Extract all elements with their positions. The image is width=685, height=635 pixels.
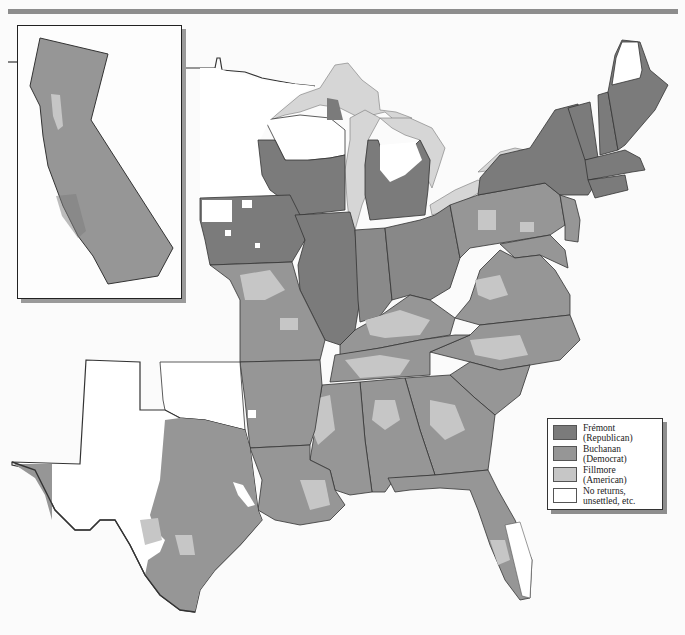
- pa-fillmore-2: [520, 222, 534, 232]
- pa-fillmore-1: [478, 210, 496, 230]
- iowa-white-2: [225, 230, 231, 236]
- missouri-fillmore-2: [280, 318, 298, 330]
- legend-label-no-returns: No returns, unsettled, etc.: [583, 487, 636, 506]
- legend-swatch-no-returns: [553, 488, 577, 503]
- california-inset: [17, 25, 182, 299]
- legend-item-no-returns: No returns, unsettled, etc.: [553, 487, 662, 508]
- iowa-white-1: [242, 200, 252, 208]
- maine-north-white: [612, 42, 642, 85]
- legend-swatch-fremont: [553, 425, 577, 440]
- legend-item-buchanan: Buchanan (Democrat): [553, 445, 662, 466]
- iowa-white-nw: [202, 200, 232, 222]
- map-legend: Frémont (Republican) Buchanan (Democrat)…: [547, 418, 663, 510]
- legend-label-fillmore: Fillmore (American): [583, 466, 627, 485]
- california-map: [18, 26, 181, 298]
- state-california: [30, 38, 173, 284]
- state-ohio: [385, 205, 460, 300]
- legend-item-fremont: Frémont (Republican): [553, 424, 662, 445]
- legend-label-fremont: Frémont (Republican): [583, 424, 633, 443]
- legend-label-buchanan: Buchanan (Democrat): [583, 445, 627, 464]
- legend-item-fillmore: Fillmore (American): [553, 466, 662, 487]
- state-arkansas: [240, 360, 322, 448]
- legend-swatch-buchanan: [553, 446, 577, 461]
- iowa-white-3: [255, 243, 260, 248]
- arkansas-white: [248, 410, 256, 418]
- legend-swatch-fillmore: [553, 467, 577, 482]
